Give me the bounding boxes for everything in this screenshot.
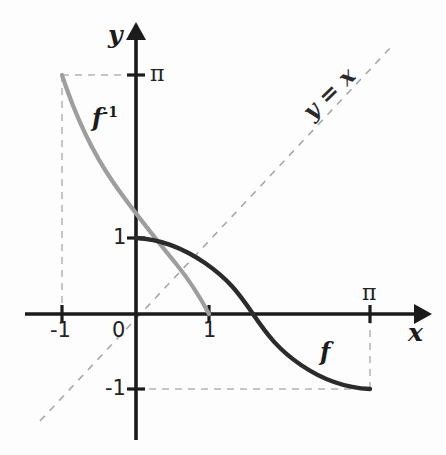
origin-label: 0 [112,320,125,341]
y-tick-label-minus-one: -1 [105,378,126,399]
inverse-curve-label-base: f [92,103,102,132]
y-tick-label-one: 1 [113,227,126,248]
x-axis-label: x [408,320,423,345]
inverse-curve-label-exponent: -1 [102,104,118,120]
function-inverse-graph-figure: y x 0 -1 1 π π 1 -1 f f-1 y = x [0,0,446,455]
x-tick-label-minus-one: -1 [50,320,71,341]
y-tick-label-pi: π [150,63,164,85]
x-tick-label-one: 1 [203,320,216,341]
y-axis-label: y [108,22,123,47]
x-tick-label-pi: π [362,282,376,304]
y-axis-arrowhead [126,22,146,40]
inverse-curve-label: f-1 [92,105,118,130]
plot-canvas [0,0,446,455]
function-curve-label: f [320,340,330,364]
